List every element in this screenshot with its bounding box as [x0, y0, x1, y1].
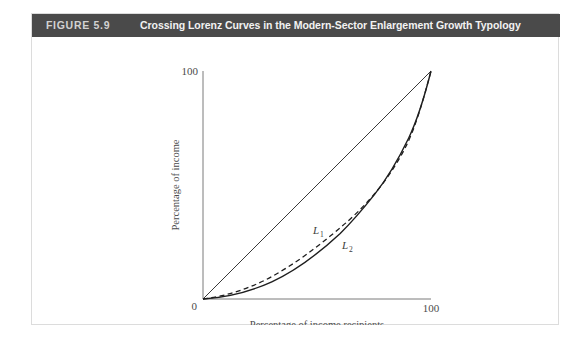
figure-title: Crossing Lorenz Curves in the Modern-Sec…	[140, 19, 521, 31]
figure-number-label: FIGURE 5.9	[46, 19, 110, 31]
plot-area: 100 0 100 Percentage of income recipient…	[32, 37, 560, 325]
x-tick-label-100: 100	[423, 302, 440, 314]
lorenz-curve-chart: 100 0 100 Percentage of income recipient…	[32, 37, 560, 325]
curve-label-L1-letter: L	[312, 224, 319, 236]
line-of-equality	[203, 71, 431, 299]
y-tick-label-100: 100	[182, 65, 199, 77]
figure-card: FIGURE 5.9 Crossing Lorenz Curves in the…	[31, 13, 559, 325]
figure-screenshot: FIGURE 5.9 Crossing Lorenz Curves in the…	[0, 0, 588, 344]
y-tick-label-0: 0	[192, 300, 198, 312]
curve-label-L1-subscript: 1	[320, 230, 324, 239]
y-axis-title: Percentage of income	[170, 139, 181, 230]
figure-header-bar: FIGURE 5.9 Crossing Lorenz Curves in the…	[32, 14, 560, 37]
curve-label-L2-subscript: 2	[349, 245, 353, 254]
curve-label-L1: L 1	[312, 224, 324, 239]
curve-label-L2: L 2	[341, 239, 353, 254]
x-axis-title: Percentage of income recipients	[250, 319, 384, 325]
curve-label-L2-letter: L	[341, 239, 348, 251]
